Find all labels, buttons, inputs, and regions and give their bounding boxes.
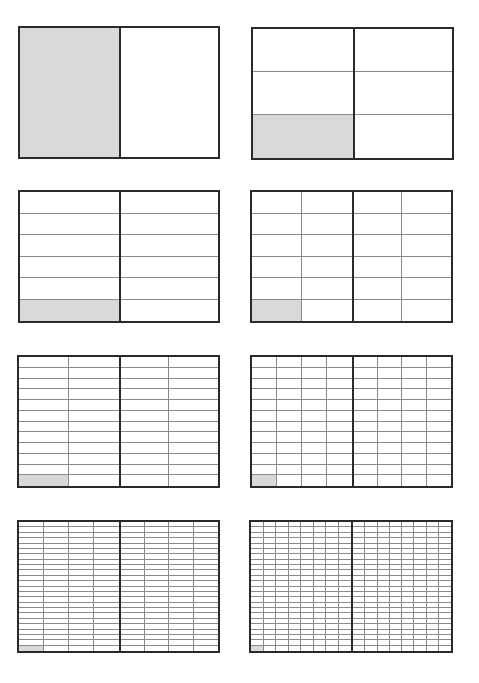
grid-cell (354, 422, 378, 433)
grid-cell (378, 646, 390, 651)
grid-cell (302, 400, 327, 411)
grid-cell (302, 443, 327, 454)
fraction-grid-panel (250, 190, 453, 323)
fraction-grid-panel (17, 520, 220, 653)
grid-cell (19, 400, 69, 411)
fraction-grid-panel (17, 355, 220, 488)
grid-cell (354, 192, 403, 214)
right-half (119, 192, 218, 321)
grid-cell (19, 454, 69, 465)
grid-cell (427, 432, 451, 443)
right-half (119, 357, 219, 486)
grid-cell (427, 422, 451, 433)
grid-cell (19, 368, 69, 379)
grid-cell (327, 422, 352, 433)
grid-cell (402, 475, 426, 486)
grid-cell (302, 411, 327, 422)
grid-cell (354, 300, 403, 322)
grid-cell (378, 475, 402, 486)
grid-cell (277, 411, 302, 422)
grid-cell (302, 278, 352, 300)
grid-cell (302, 257, 352, 279)
left-half (252, 357, 352, 486)
grid-cell (327, 368, 352, 379)
grid-cell (378, 443, 402, 454)
grid-cell (252, 357, 277, 368)
grid-cell (427, 389, 451, 400)
grid-cell (402, 443, 426, 454)
grid-cell (327, 443, 352, 454)
grid-cell (277, 357, 302, 368)
grid-cell (378, 368, 402, 379)
grid-cell (69, 379, 119, 390)
grid-cell (169, 646, 193, 651)
fraction-grid-panel (250, 355, 453, 488)
grid-cell (20, 235, 119, 257)
grid-cell (169, 389, 218, 400)
grid-cell (354, 278, 403, 300)
grid-cell (252, 411, 277, 422)
grid-cell (402, 214, 451, 236)
grid-cell (276, 646, 289, 651)
grid-cell (253, 72, 353, 115)
grid-cell (252, 214, 302, 236)
grid-cell (402, 278, 451, 300)
grid-cell (327, 411, 352, 422)
grid-cell (302, 192, 352, 214)
grid-cell (302, 357, 327, 368)
grid-cell (339, 646, 352, 651)
grid-cell (252, 379, 277, 390)
grid-cell (402, 646, 414, 651)
right-half (352, 357, 452, 486)
grid-cell (402, 235, 451, 257)
grid-cell (427, 368, 451, 379)
grid-cell (169, 475, 218, 486)
grid-cell (264, 646, 277, 651)
grid-cell (327, 454, 352, 465)
grid-cell (378, 357, 402, 368)
right-half (119, 28, 218, 157)
grid-cell (378, 422, 402, 433)
grid-cell (277, 422, 302, 433)
left-half (19, 522, 119, 651)
shaded-cell (20, 28, 119, 157)
grid-cell (327, 357, 352, 368)
grid-cell (354, 432, 378, 443)
grid-cell (355, 72, 453, 115)
right-half (352, 192, 452, 321)
grid-cell (427, 646, 439, 651)
grid-cell (277, 379, 302, 390)
grid-cell (145, 646, 169, 651)
grid-cell (354, 389, 378, 400)
grid-cell (302, 389, 327, 400)
grid-cell (169, 465, 218, 476)
grid-cell (414, 646, 426, 651)
grid-cell (19, 465, 69, 476)
left-half (19, 357, 119, 486)
grid-cell (121, 432, 170, 443)
grid-cell (252, 400, 277, 411)
grid-cell (402, 454, 426, 465)
left-half (251, 522, 351, 651)
grid-cell (277, 389, 302, 400)
grid-cell (169, 379, 218, 390)
grid-cell (169, 411, 218, 422)
grid-cell (390, 646, 402, 651)
grid-cell (354, 214, 403, 236)
grid-cell (121, 192, 218, 214)
fraction-grid-panel (251, 27, 454, 160)
grid-cell (327, 475, 352, 486)
grid-cell (327, 400, 352, 411)
grid-cell (378, 432, 402, 443)
grid-cell (355, 29, 453, 72)
grid-cell (354, 465, 378, 476)
grid-cell (121, 300, 218, 322)
grid-cell (20, 192, 119, 214)
grid-cell (302, 422, 327, 433)
grid-cell (121, 379, 170, 390)
grid-cell (19, 422, 69, 433)
grid-cell (69, 368, 119, 379)
grid-cell (277, 400, 302, 411)
shaded-cell (253, 115, 353, 158)
grid-cell (353, 646, 365, 651)
